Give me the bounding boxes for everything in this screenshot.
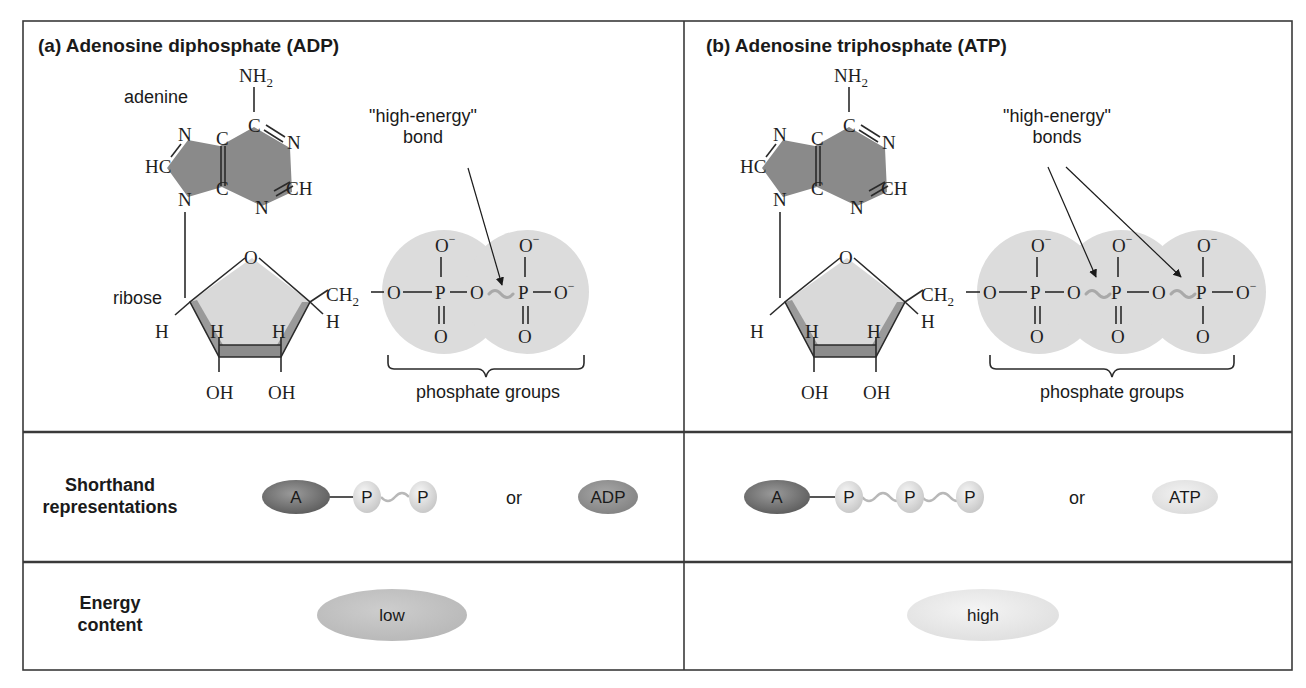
svg-text:CH: CH	[286, 178, 313, 199]
energy-row: Energy content low high	[78, 589, 1060, 641]
svg-text:P: P	[1196, 282, 1207, 303]
svg-text:P: P	[904, 488, 915, 507]
svg-text:NH2: NH2	[239, 65, 273, 90]
svg-text:OH: OH	[863, 382, 891, 403]
svg-text:CH: CH	[881, 178, 908, 199]
adenine-structure: NH2 C N CH N C C N HC N	[740, 65, 908, 298]
svg-text:O: O	[1111, 326, 1125, 347]
svg-text:O: O	[1152, 282, 1166, 303]
svg-text:O: O	[1067, 282, 1081, 303]
svg-text:H: H	[155, 321, 169, 342]
ribose-label: ribose	[113, 288, 162, 308]
svg-text:H: H	[750, 321, 764, 342]
svg-text:H: H	[805, 321, 819, 342]
svg-text:H: H	[326, 311, 340, 332]
svg-text:OH: OH	[268, 382, 296, 403]
svg-text:or: or	[1069, 488, 1085, 508]
svg-text:O: O	[470, 282, 484, 303]
atp-phosphate-groups: O P O P O P O− O− O O− O O−	[966, 230, 1266, 402]
phosphate-brace	[990, 355, 1234, 377]
svg-text:O: O	[387, 282, 401, 303]
svg-text:content: content	[78, 615, 143, 635]
low-energy-value: low	[379, 606, 405, 625]
adp-shorthand-chain: A P P or ADP	[262, 480, 638, 514]
svg-text:H: H	[867, 321, 881, 342]
atp-shorthand-chain: A P P P or ATP	[744, 480, 1218, 514]
svg-text:P: P	[964, 488, 975, 507]
svg-text:A: A	[771, 488, 783, 507]
svg-text:A: A	[290, 488, 302, 507]
svg-text:or: or	[506, 488, 522, 508]
svg-text:ATP: ATP	[1169, 488, 1201, 507]
svg-text:O: O	[983, 282, 997, 303]
svg-text:"high-energy": "high-energy"	[1003, 106, 1111, 126]
high-energy-value: high	[967, 606, 999, 625]
svg-text:H: H	[272, 321, 286, 342]
svg-text:P: P	[1030, 282, 1041, 303]
svg-text:C: C	[811, 178, 824, 199]
svg-text:P: P	[843, 488, 854, 507]
svg-text:P: P	[417, 488, 428, 507]
svg-text:P: P	[435, 282, 446, 303]
energy-content-label: Energy	[79, 593, 140, 613]
svg-text:O: O	[244, 247, 258, 268]
svg-text:P: P	[361, 488, 372, 507]
panel-atp: (b) Adenosine triphosphate (ATP) NH2 C N…	[706, 35, 1266, 403]
svg-text:N: N	[178, 124, 192, 145]
panel-adp: (a) Adenosine diphosphate (ADP) adenine …	[38, 35, 589, 403]
svg-text:N: N	[850, 197, 864, 218]
svg-text:"high-energy": "high-energy"	[369, 106, 477, 126]
shorthand-label: Shorthand	[65, 475, 155, 495]
svg-text:N: N	[287, 132, 301, 153]
svg-text:OH: OH	[801, 382, 829, 403]
svg-text:bond: bond	[403, 127, 443, 147]
adp-atp-diagram: (a) Adenosine diphosphate (ADP) adenine …	[0, 0, 1306, 688]
svg-text:O: O	[839, 247, 853, 268]
svg-text:HC: HC	[740, 156, 766, 177]
svg-text:OH: OH	[206, 382, 234, 403]
svg-text:N: N	[882, 132, 896, 153]
shorthand-row: Shorthand representations A P P or ADP A…	[42, 475, 1218, 517]
svg-text:NH2: NH2	[834, 65, 868, 90]
svg-text:ADP: ADP	[591, 488, 626, 507]
svg-text:HC: HC	[145, 156, 171, 177]
svg-text:O: O	[1030, 326, 1044, 347]
svg-text:O: O	[518, 326, 532, 347]
svg-text:representations: representations	[42, 497, 177, 517]
adenine-label: adenine	[124, 87, 188, 107]
svg-text:H: H	[921, 311, 935, 332]
svg-text:C: C	[843, 115, 856, 136]
svg-text:CH2: CH2	[921, 284, 954, 309]
svg-text:O: O	[1196, 326, 1210, 347]
svg-text:N: N	[773, 124, 787, 145]
svg-text:C: C	[811, 128, 824, 149]
atp-nucleoside: NH2 C N CH N C C N HC N	[740, 65, 954, 403]
svg-text:P: P	[1111, 282, 1122, 303]
svg-text:bonds: bonds	[1032, 127, 1081, 147]
svg-text:CH2: CH2	[326, 284, 359, 309]
svg-text:C: C	[216, 178, 229, 199]
phosphate-brace	[388, 355, 584, 377]
svg-text:O: O	[434, 326, 448, 347]
svg-text:C: C	[248, 115, 261, 136]
svg-text:N: N	[255, 197, 269, 218]
phosphate-groups-label: phosphate groups	[1040, 382, 1184, 402]
svg-text:P: P	[518, 282, 529, 303]
svg-text:N: N	[178, 189, 192, 210]
phosphate-groups-label: phosphate groups	[416, 382, 560, 402]
svg-text:H: H	[210, 321, 224, 342]
svg-text:N: N	[773, 189, 787, 210]
panel-atp-title: (b) Adenosine triphosphate (ATP)	[706, 35, 1007, 56]
panel-adp-title: (a) Adenosine diphosphate (ADP)	[38, 35, 339, 56]
svg-text:C: C	[216, 128, 229, 149]
adp-phosphate-groups: O P O P O− O− O O− O phosphate groups	[371, 230, 589, 402]
